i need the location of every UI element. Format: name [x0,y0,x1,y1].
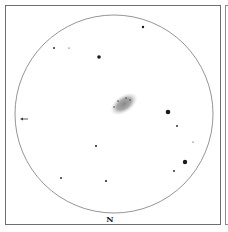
north-label: N [104,214,116,224]
star [192,141,193,142]
star [176,125,178,127]
galaxy [107,88,141,119]
star [183,160,187,164]
star [173,170,175,172]
star [95,145,97,147]
star [166,110,171,115]
star [97,55,101,59]
star [142,26,144,28]
star [60,177,62,179]
star [105,180,107,182]
direction-arrow-icon [20,118,28,121]
star [68,47,69,48]
star [53,47,55,49]
eyepiece-sketch [0,0,228,232]
